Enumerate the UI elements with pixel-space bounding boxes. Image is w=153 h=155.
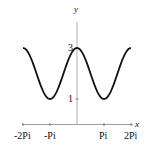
x-tick-label-neg-2pi: -2Pi xyxy=(14,130,31,141)
x-tick-label-neg-pi: -Pi xyxy=(44,130,56,141)
x-tick-label-pi: Pi xyxy=(99,130,108,141)
x-tick-label-2pi: 2Pi xyxy=(124,130,138,141)
y-axis-label: y xyxy=(73,4,78,14)
x-axis-label: x xyxy=(134,119,139,129)
y-tick-label-3: 3 xyxy=(68,42,73,53)
y-tick-label-1: 1 xyxy=(68,93,73,104)
chart: y x 3 1 -2Pi -Pi Pi 2Pi xyxy=(0,0,153,155)
